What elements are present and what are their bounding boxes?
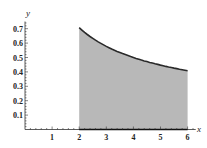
y-axis-ticks: 0.10.20.30.40.50.60.7 (13, 23, 28, 127)
x-tick-label: 5 (159, 133, 163, 142)
y-axis-label: y (25, 8, 30, 18)
x-tick-label: 1 (50, 133, 54, 142)
shaded-area (79, 28, 187, 130)
area-chart: 123456 0.10.20.30.40.50.60.7 x y (0, 0, 207, 148)
x-tick-label: 3 (104, 133, 108, 142)
y-tick-label: 0.6 (13, 39, 23, 48)
y-tick-label: 0.5 (13, 54, 23, 63)
y-tick-label: 0.2 (13, 97, 23, 106)
x-tick-label: 2 (77, 133, 81, 142)
y-tick-label: 0.4 (13, 68, 23, 77)
y-tick-label: 0.3 (13, 82, 23, 91)
y-tick-label: 0.7 (13, 25, 23, 34)
y-tick-label: 0.1 (13, 111, 23, 120)
x-tick-label: 6 (186, 133, 190, 142)
x-tick-label: 4 (131, 133, 135, 142)
x-axis-label: x (196, 124, 201, 134)
